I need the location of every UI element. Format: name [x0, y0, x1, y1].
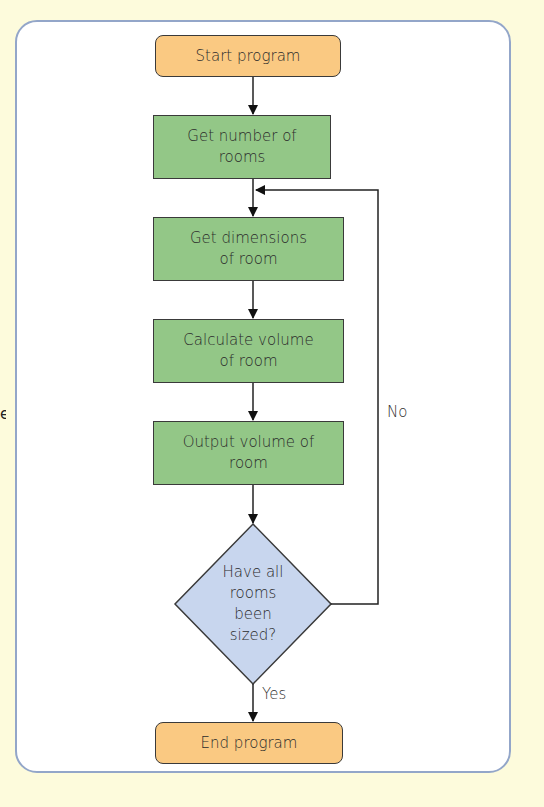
start-node: Start program — [155, 35, 341, 77]
no-label: No — [387, 403, 407, 421]
step-label: Get dimensions — [190, 228, 307, 249]
decision-text: Have all rooms been sized? — [203, 562, 303, 646]
decision-line: Have all — [203, 562, 303, 583]
decision-line: rooms — [203, 583, 303, 604]
step-get-number-of-rooms: Get number of rooms — [153, 115, 331, 179]
yes-label: Yes — [262, 685, 286, 703]
start-label: Start program — [196, 46, 301, 67]
step-calculate-volume: Calculate volume of room — [153, 319, 344, 383]
step-label: Calculate volume — [183, 330, 313, 351]
step-label: of room — [183, 351, 313, 372]
step-label: room — [183, 453, 315, 474]
step-label: Get number of — [187, 126, 296, 147]
end-label: End program — [201, 733, 298, 754]
decision-line: sized? — [203, 625, 303, 646]
decision-line: been — [203, 604, 303, 625]
step-get-dimensions: Get dimensions of room — [153, 217, 344, 281]
step-label: Output volume of — [183, 432, 315, 453]
step-label: of room — [190, 249, 307, 270]
end-node: End program — [155, 722, 343, 764]
step-label: rooms — [187, 147, 296, 168]
step-output-volume: Output volume of room — [153, 421, 344, 485]
